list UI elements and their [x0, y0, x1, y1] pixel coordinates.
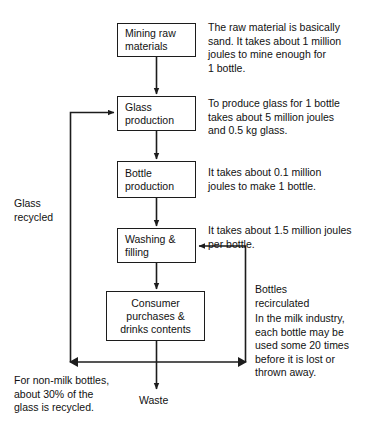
note-glass-production: To produce glass for 1 bottle takes abou… — [208, 97, 376, 138]
flowchart-diagram: Mining raw materials Glass production Bo… — [0, 0, 379, 439]
node-label-line: Bottle — [125, 167, 152, 180]
edge-label-bottles-recirculated: Bottles recirculated — [255, 283, 365, 310]
node-label-line: Consumer — [131, 297, 179, 310]
edge-bottles-recirculated-riser — [199, 246, 246, 362]
node-label-line: production — [125, 114, 174, 127]
node-label-line: materials — [125, 40, 168, 53]
note-mining-raw-materials: The raw material is basically sand. It t… — [208, 21, 376, 75]
node-bottle-production[interactable]: Bottle production — [117, 161, 196, 198]
node-label-line: Washing & — [125, 233, 175, 246]
node-label-line: Mining raw — [125, 27, 176, 40]
note-bottle-production: It takes about 0.1 million joules to mak… — [208, 166, 376, 193]
node-label-line: filling — [125, 246, 149, 259]
node-label-line: drinks contents — [120, 323, 191, 336]
node-mining-raw-materials[interactable]: Mining raw materials — [117, 23, 196, 57]
node-label-line: production — [125, 180, 174, 193]
note-milk-industry: In the milk industry, each bottle may be… — [255, 312, 375, 380]
node-consumer-purchases[interactable]: Consumer purchases & drinks contents — [106, 291, 205, 341]
node-washing-and-filling[interactable]: Washing & filling — [117, 228, 196, 263]
terminal-waste: Waste — [139, 394, 168, 407]
node-glass-production[interactable]: Glass production — [117, 96, 196, 131]
edge-label-glass-recycled: Glass recycled — [14, 197, 76, 224]
node-label-line: Glass — [125, 101, 152, 114]
node-label-line: purchases & — [126, 310, 184, 323]
edge-label-non-milk-bottles: For non-milk bottles, about 30% of the g… — [14, 374, 144, 415]
note-washing-and-filling: It takes about 1.5 million joules per bo… — [208, 224, 379, 251]
